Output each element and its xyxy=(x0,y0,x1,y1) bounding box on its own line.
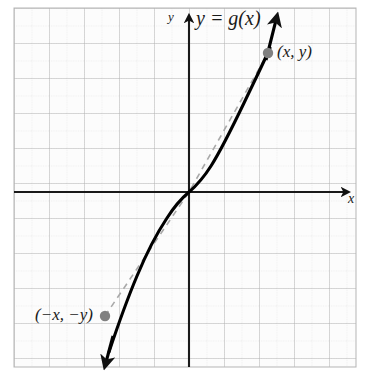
x-axis-label: x xyxy=(348,192,354,206)
marker-point-negative xyxy=(100,311,110,321)
function-label: y = g(x) xyxy=(196,8,261,28)
marker-point-positive xyxy=(263,48,273,58)
plot-canvas xyxy=(0,0,371,385)
y-axis-label: y xyxy=(168,10,174,23)
graph-figure: y y = g(x) (x, y) (−x, −y) x xyxy=(0,0,371,385)
point-label-positive: (x, y) xyxy=(277,43,312,60)
point-label-negative: (−x, −y) xyxy=(35,306,93,323)
